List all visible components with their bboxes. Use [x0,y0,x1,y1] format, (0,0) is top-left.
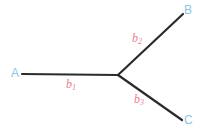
branch-label-b3-subscript: 3 [140,98,144,107]
taxon-label-b: B [184,4,192,16]
phylogenetic-tree-figure: A B C b1 b2 b3 [0,0,202,137]
branch-label-b3: b3 [134,93,144,105]
branch-label-b2: b2 [132,32,142,44]
branch-line-b2 [118,14,183,75]
taxon-label-a: A [11,67,19,79]
taxon-label-c: C [184,114,193,126]
branch-label-b1: b1 [66,78,76,90]
branch-line-b1 [22,74,118,75]
branch-label-b2-subscript: 2 [138,37,142,46]
tree-diagram-svg [0,0,202,137]
branch-line-b3 [118,75,182,120]
branch-label-b1-subscript: 1 [72,83,76,92]
